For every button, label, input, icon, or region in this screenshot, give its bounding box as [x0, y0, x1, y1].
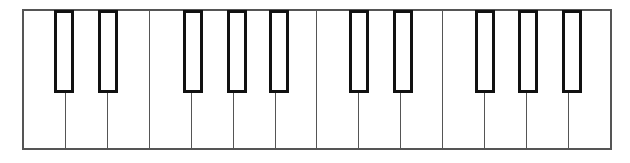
- black-key-asharp-4[interactable]: [269, 10, 289, 93]
- black-key-fsharp-2[interactable]: [183, 10, 203, 93]
- black-key-layer: [24, 11, 610, 148]
- black-key-gsharp-8[interactable]: [518, 10, 538, 93]
- piano-keyboard-diagram: [0, 0, 630, 163]
- black-key-csharp-5[interactable]: [349, 10, 369, 93]
- black-key-csharp-0[interactable]: [54, 10, 74, 93]
- black-key-asharp-9[interactable]: [562, 10, 582, 93]
- black-key-fsharp-7[interactable]: [475, 10, 495, 93]
- black-key-dsharp-1[interactable]: [98, 10, 118, 93]
- keyboard-frame: [22, 9, 612, 150]
- black-key-dsharp-6[interactable]: [393, 10, 413, 93]
- black-key-gsharp-3[interactable]: [227, 10, 247, 93]
